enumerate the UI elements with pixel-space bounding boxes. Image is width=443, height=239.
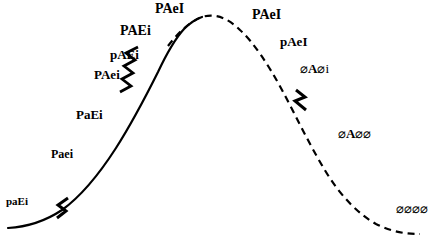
zigzag-break-right-icon <box>295 90 306 110</box>
curve-label-null-a-null-i: ⌀A⌀i <box>300 62 329 75</box>
curve-label-pa-e-i: paEi <box>6 196 28 207</box>
curve-label-peak-left: PAeI <box>155 2 184 16</box>
curve-label-lower-p-a-e: pAEi <box>110 48 139 61</box>
curve-solid-segment <box>8 17 202 228</box>
curve-label-null-a-null-null: ⌀A⌀⌀ <box>338 127 371 140</box>
curve-label-p-a-e-big-i: PAEi <box>120 24 151 38</box>
curve-label-p-a-e-i: Paei <box>51 148 73 160</box>
curve-graphic <box>0 0 443 239</box>
curve-label-p-big-a-e-i: PAei <box>94 68 120 81</box>
curve-label-p-a-big-e-i: PaEi <box>76 108 103 121</box>
curve-label-peak-right: PAeI <box>252 8 281 22</box>
curve-diagram: paEiPaeiPaEiPAeipAEiPAEiPAeIPAeIpAeI⌀A⌀i… <box>0 0 443 239</box>
curve-label-right-lower: pAeI <box>280 35 307 48</box>
curve-label-all-null: ⌀⌀⌀⌀ <box>396 202 428 215</box>
